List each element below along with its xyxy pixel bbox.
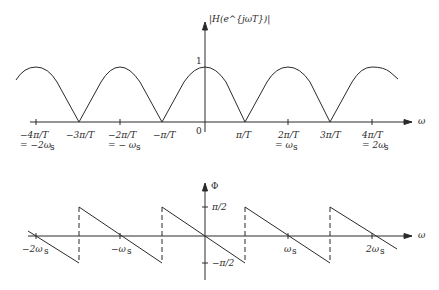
magnitude-x-label: ω [418, 116, 426, 126]
svg-text:−3π/T: −3π/T [66, 130, 95, 140]
svg-text:s: s [293, 142, 298, 152]
svg-text:2π/T: 2π/T [277, 130, 300, 140]
x-axis-arrow-icon [404, 234, 412, 239]
svg-text:3π/T: 3π/T [320, 130, 342, 140]
svg-text:4π/T: 4π/T [361, 130, 384, 140]
svg-text:= 2ω: = 2ω [362, 140, 386, 150]
svg-text:−2ω: −2ω [22, 244, 43, 254]
svg-text:s: s [44, 246, 49, 256]
magnitude-plot [16, 22, 412, 132]
svg-text:−4π/T: −4π/T [20, 130, 49, 140]
magnitude-x-tick-labels: −4π/T = −2ω s −3π/T −2π/T = − ω s −π/T π… [20, 130, 389, 152]
svg-text:π/T: π/T [235, 130, 252, 140]
diagram-canvas: |H(e^{jωT})| 1 0 ω −4π/T = −2ω s −3π/T −… [0, 0, 439, 290]
svg-text:s: s [50, 142, 55, 152]
svg-text:−π/T: −π/T [153, 130, 176, 140]
y-tick-pi-half: π/2 [211, 202, 227, 212]
svg-text:ω: ω [284, 244, 292, 254]
x-axis-arrow-icon [404, 120, 412, 125]
svg-text:s: s [292, 246, 297, 256]
svg-text:= −2ω: = −2ω [20, 140, 52, 150]
y-axis-arrow-icon [203, 22, 208, 30]
phase-x-tick-labels: −2ω s −ω s ω s 2ω s [22, 244, 385, 256]
origin-label: 0 [196, 126, 202, 136]
phase-curve [28, 207, 397, 263]
phase-y-label: Φ [211, 181, 218, 191]
phase-x-label: ω [418, 230, 426, 240]
svg-text:s: s [127, 246, 132, 256]
svg-text:= ω: = ω [275, 140, 293, 150]
svg-text:s: s [380, 246, 385, 256]
svg-text:−ω: −ω [111, 244, 127, 254]
magnitude-y-label: |H(e^{jωT})| [209, 14, 270, 25]
svg-text:2ω: 2ω [365, 244, 380, 254]
svg-text:s: s [136, 142, 141, 152]
y-tick-one: 1 [196, 56, 202, 66]
svg-text:s: s [384, 142, 389, 152]
svg-text:= − ω: = − ω [108, 140, 137, 150]
y-axis-arrow-icon [203, 183, 208, 191]
magnitude-curve [16, 67, 398, 122]
y-tick-neg-pi-half: −π/2 [212, 258, 234, 268]
svg-text:−2π/T: −2π/T [108, 130, 137, 140]
